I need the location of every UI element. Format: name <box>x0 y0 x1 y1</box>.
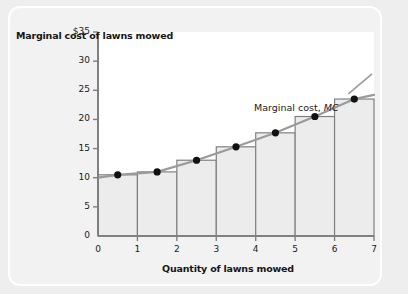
data-point-4 <box>232 143 239 150</box>
x-tick-label-3: 3 <box>208 244 224 254</box>
bar-1 <box>98 175 137 236</box>
bar-3 <box>177 160 216 236</box>
x-tick-label-7: 7 <box>366 244 382 254</box>
y-tick-label-20: 20 <box>56 113 90 123</box>
y-tick-label-15: 15 <box>56 143 90 153</box>
x-tick-label-2: 2 <box>169 244 185 254</box>
data-point-7 <box>351 95 358 102</box>
bar-5 <box>256 133 295 236</box>
y-tick-label-5: 5 <box>56 201 90 211</box>
data-point-5 <box>272 129 279 136</box>
bar-6 <box>295 117 334 236</box>
legend-label-symbol: MC <box>324 102 339 113</box>
bar-7 <box>335 99 374 236</box>
legend-label: Marginal cost, MC <box>254 102 339 113</box>
data-point-2 <box>154 168 161 175</box>
bar-4 <box>216 147 255 236</box>
data-point-6 <box>311 113 318 120</box>
data-point-3 <box>193 157 200 164</box>
marginal-cost-chart: Marginal cost of lawns mowed Quantity of… <box>10 8 384 288</box>
y-tick-label-35: $35 <box>56 26 90 36</box>
figure-card: Marginal cost of lawns mowed Quantity of… <box>8 6 382 286</box>
data-point-1 <box>114 171 121 178</box>
x-tick-label-6: 6 <box>327 244 343 254</box>
x-tick-label-4: 4 <box>248 244 264 254</box>
y-tick-label-10: 10 <box>56 172 90 182</box>
legend-label-text: Marginal cost, <box>254 102 324 113</box>
y-tick-label-30: 30 <box>56 55 90 65</box>
y-tick-label-0: 0 <box>56 230 90 240</box>
x-tick-label-1: 1 <box>129 244 145 254</box>
x-axis-title: Quantity of lawns mowed <box>128 263 328 275</box>
x-tick-label-0: 0 <box>90 244 106 254</box>
x-tick-label-5: 5 <box>287 244 303 254</box>
bar-2 <box>137 172 176 236</box>
y-tick-label-25: 25 <box>56 84 90 94</box>
